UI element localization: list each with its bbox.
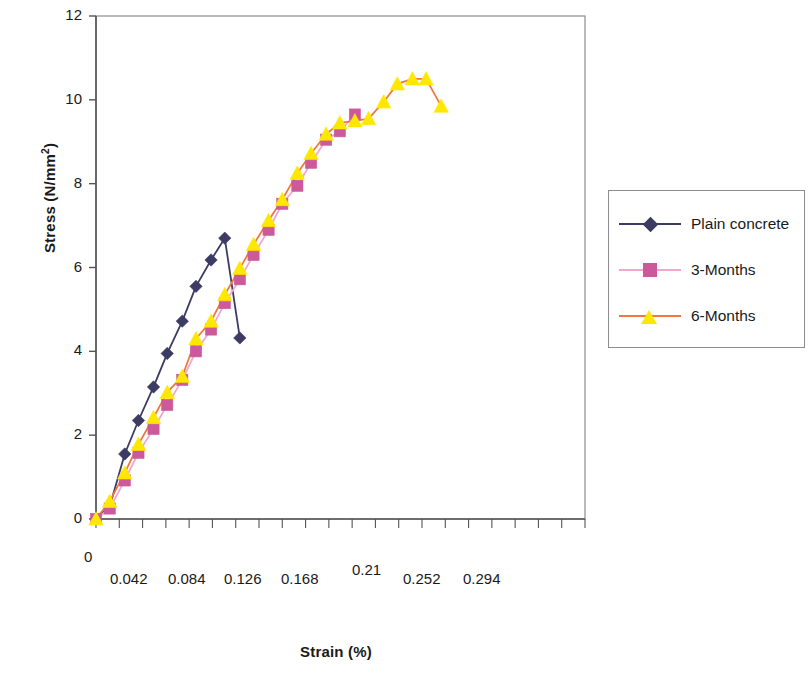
data-point-triangle <box>434 99 448 112</box>
y-axis-tick-label: 4 <box>38 341 82 358</box>
legend-item-3-months[interactable]: 3-Months <box>609 255 804 285</box>
data-point-diamond <box>234 332 246 344</box>
data-point-triangle <box>390 77 404 90</box>
y-axis-title: Stress (N/mm2) <box>40 98 64 298</box>
data-point-triangle <box>233 261 247 274</box>
legend: Plain concrete3-Months6-Months <box>608 190 805 348</box>
data-point-square <box>234 274 245 285</box>
x-axis-tick-label: 0.252 <box>403 570 441 587</box>
y-axis-tick-label: 12 <box>38 6 82 23</box>
data-point-diamond <box>176 315 188 327</box>
series-line-plain-concrete <box>96 238 240 519</box>
x-axis-tick-label: 0.042 <box>110 570 148 587</box>
legend-label: 6-Months <box>691 307 756 325</box>
x-axis-tick-label: 0.168 <box>281 570 319 587</box>
data-point-square <box>148 423 159 434</box>
x-axis-title-text: Strain (%) <box>300 643 372 660</box>
data-point-square <box>248 249 259 260</box>
legend-label: 3-Months <box>691 261 756 279</box>
data-point-diamond <box>119 448 131 460</box>
x-axis-tick-label: 0.126 <box>224 570 262 587</box>
data-point-triangle <box>246 237 260 250</box>
y-axis-tick-label: 0 <box>38 509 82 526</box>
data-point-square <box>162 399 173 410</box>
data-point-square <box>292 180 303 191</box>
y-axis-title-base: Stress (N/mm <box>41 154 58 253</box>
legend-swatch <box>619 213 681 235</box>
series-line-6-months <box>96 79 441 519</box>
data-point-diamond <box>219 232 231 244</box>
data-point-triangle <box>290 166 304 179</box>
data-point-diamond <box>132 414 144 426</box>
y-axis-title-superscript: 2 <box>40 148 51 154</box>
data-point-diamond <box>147 381 159 393</box>
data-point-diamond <box>205 254 217 266</box>
data-point-square <box>190 346 201 357</box>
x-axis-tick-label: 0.294 <box>463 570 501 587</box>
legend-diamond-icon <box>643 217 659 233</box>
legend-item-6-months[interactable]: 6-Months <box>609 301 804 331</box>
legend-item-plain-concrete[interactable]: Plain concrete <box>609 209 804 239</box>
x-axis-title: Strain (%) <box>196 643 476 661</box>
legend-swatch <box>619 259 681 281</box>
legend-label: Plain concrete <box>691 215 789 233</box>
x-axis-tick-label: 0 <box>84 548 92 565</box>
x-axis-tick-label: 0.084 <box>168 570 206 587</box>
legend-triangle-icon <box>641 310 657 324</box>
data-point-triangle <box>146 410 160 423</box>
plot-border <box>96 16 585 519</box>
x-axis-tick-label: 0.21 <box>352 561 381 578</box>
legend-swatch <box>619 305 681 327</box>
data-point-diamond <box>190 280 202 292</box>
y-axis-title-close: ) <box>41 143 58 148</box>
stress-strain-chart: 024681012 00.0420.0840.1260.1680.210.252… <box>0 0 812 677</box>
y-axis-tick-label: 2 <box>38 425 82 442</box>
legend-square-icon <box>643 263 657 277</box>
data-point-diamond <box>161 347 173 359</box>
